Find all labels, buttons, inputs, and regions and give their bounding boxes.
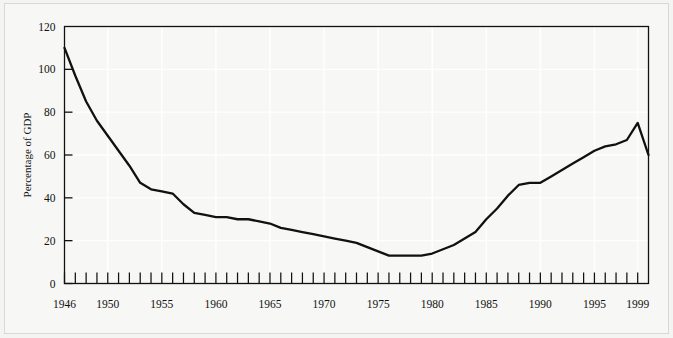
y-axis-tick-label: 60 — [44, 149, 56, 161]
figure-container: 020406080100120 194619501955196019651970… — [0, 0, 673, 338]
y-axis-tick-label: 80 — [44, 106, 56, 118]
x-axis-tick-labels: 1946195019551960196519701975198019851990… — [53, 298, 649, 310]
y-axis-tick-label: 100 — [38, 63, 56, 75]
x-axis-tick-label: 1946 — [53, 298, 76, 310]
x-axis-tick-label: 1990 — [529, 298, 552, 310]
x-axis-tick-label: 1999 — [626, 298, 649, 310]
x-axis-tick-label: 1960 — [204, 298, 227, 310]
y-axis-tick-label: 20 — [44, 235, 56, 247]
x-axis-minor-ticks — [65, 273, 638, 284]
data-series-line — [65, 48, 649, 256]
x-axis-tick-label: 1950 — [96, 298, 119, 310]
x-axis-tick-label: 1970 — [313, 298, 336, 310]
gridlines-group — [65, 27, 649, 284]
x-axis-tick-label: 1985 — [475, 298, 498, 310]
x-axis-tick-label: 1955 — [150, 298, 173, 310]
y-axis-title: Percentage of GDP — [21, 113, 33, 198]
y-axis-tick-label: 0 — [50, 278, 56, 290]
y-axis-major-ticks — [65, 69, 73, 283]
x-axis-tick-label: 1965 — [258, 298, 281, 310]
x-axis-tick-label: 1995 — [583, 298, 606, 310]
line-chart: 020406080100120 194619501955196019651970… — [0, 0, 673, 338]
y-axis-tick-label: 120 — [38, 21, 56, 33]
y-axis-tick-labels: 020406080100120 — [38, 21, 56, 290]
x-axis-tick-label: 1975 — [367, 298, 390, 310]
x-axis-tick-label: 1980 — [421, 298, 444, 310]
y-axis-tick-label: 40 — [44, 192, 56, 204]
